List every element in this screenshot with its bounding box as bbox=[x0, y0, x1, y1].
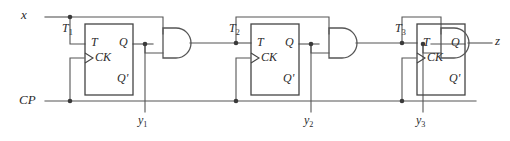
ff2-ck-pin-label: CK bbox=[261, 50, 277, 65]
wire-cp-to-ff2-ck bbox=[236, 58, 250, 101]
circuit-schematic-svg bbox=[0, 0, 510, 141]
node-label-t2-base: T bbox=[229, 21, 236, 35]
ff2-qprime-pin-label: Q' bbox=[283, 71, 294, 86]
node-label-t1-base: T bbox=[62, 21, 69, 35]
ff3-ck-pin-label: CK bbox=[427, 50, 443, 65]
circuit-diagram-canvas: x CP z T CK Q Q' T CK Q Q' T CK Q Q' T1 … bbox=[0, 0, 510, 141]
ff2-t-pin-label: T bbox=[257, 35, 264, 50]
node-label-y3: y3 bbox=[416, 113, 425, 129]
node-label-t3-base: T bbox=[395, 21, 402, 35]
node-label-y2: y2 bbox=[304, 113, 313, 129]
wire-x-to-and1-top bbox=[70, 17, 163, 34]
junction-dot-x-fanout bbox=[68, 15, 73, 20]
clock-triangle-icon-1 bbox=[85, 53, 93, 63]
node-label-t2: T2 bbox=[229, 21, 240, 37]
and-gate-icon-2 bbox=[329, 28, 357, 58]
junction-dot-cp-2 bbox=[234, 99, 239, 104]
wire-t2-to-and2-top bbox=[236, 17, 329, 43]
node-label-t1: T1 bbox=[62, 21, 73, 37]
wire-cp-to-ff3-ck bbox=[402, 58, 416, 101]
wire-ff1-q-to-and1-bottom bbox=[145, 44, 163, 53]
ff1-q-pin-label: Q bbox=[119, 35, 128, 50]
clock-triangle-icon-2 bbox=[251, 53, 259, 63]
wire-ff2-q-to-and2-bottom bbox=[311, 44, 329, 53]
junction-dot-cp-3 bbox=[400, 99, 405, 104]
junction-dots bbox=[68, 15, 426, 104]
junction-dot-y2 bbox=[309, 42, 314, 47]
ff3-t-pin-label: T bbox=[423, 35, 430, 50]
node-label-t3: T3 bbox=[395, 21, 406, 37]
node-label-y2-sub: 2 bbox=[309, 120, 313, 129]
wire-cp-to-ff1-ck bbox=[70, 58, 84, 101]
input-label-x: x bbox=[21, 7, 27, 23]
node-label-t1-sub: 1 bbox=[69, 28, 73, 37]
node-label-y3-sub: 3 bbox=[421, 120, 425, 129]
wire-t3-to-and3-top bbox=[402, 17, 441, 43]
output-label-z: z bbox=[495, 33, 500, 49]
ff1-t-pin-label: T bbox=[91, 35, 98, 50]
node-label-y1: y1 bbox=[138, 113, 147, 129]
and-gate-icon-1 bbox=[163, 28, 191, 58]
ff3-q-pin-label: Q bbox=[451, 35, 460, 50]
node-label-t3-sub: 3 bbox=[402, 28, 406, 37]
ff2-q-pin-label: Q bbox=[285, 35, 294, 50]
clock-edge-triangles bbox=[85, 53, 425, 63]
ff1-qprime-pin-label: Q' bbox=[117, 71, 128, 86]
junction-dot-t2 bbox=[234, 41, 239, 46]
node-label-y1-sub: 1 bbox=[143, 120, 147, 129]
junction-dot-y1 bbox=[143, 42, 148, 47]
node-label-t2-sub: 2 bbox=[236, 28, 240, 37]
ff1-ck-pin-label: CK bbox=[95, 50, 111, 65]
junction-dot-cp-1 bbox=[68, 99, 73, 104]
junction-dot-t3 bbox=[400, 41, 405, 46]
ff3-qprime-pin-label: Q' bbox=[449, 71, 460, 86]
input-label-cp: CP bbox=[19, 92, 36, 108]
clock-triangle-icon-3 bbox=[417, 53, 425, 63]
